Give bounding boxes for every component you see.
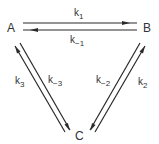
rate-label-k-minus-2: k−2	[96, 74, 111, 88]
arrow-b-to-c	[90, 43, 140, 131]
rate-subscript: −1	[75, 39, 85, 48]
arrowhead-up-left-icon	[15, 46, 21, 54]
rate-subscript: 1	[79, 12, 84, 21]
arrow-a-to-b	[23, 21, 137, 25]
arrow-b-to-a	[23, 28, 137, 32]
rate-subscript: −2	[101, 79, 111, 88]
rate-label-k-minus-1: k−1	[70, 34, 85, 48]
node-a-label: A	[7, 21, 15, 35]
rate-label-k1: k1	[74, 7, 84, 21]
arrowhead-up-right-icon	[140, 46, 146, 54]
rate-subscript: 2	[143, 81, 148, 90]
arrow-c-to-b	[95, 46, 145, 132]
arrowhead-right-icon	[122, 21, 130, 25]
arrow-c-to-a	[15, 46, 65, 132]
arrowhead-down-right-icon	[65, 123, 70, 131]
rate-subscript: 3	[20, 80, 25, 89]
rate-label-k-minus-3: k−3	[48, 74, 63, 88]
node-c-label: C	[75, 129, 84, 143]
node-b-label: B	[143, 21, 151, 35]
arrow-a-to-c	[20, 43, 70, 131]
rate-label-k2: k2	[138, 76, 148, 90]
reaction-scheme-diagram: A B C k1 k−1 k3 k−3	[0, 0, 159, 144]
rate-subscript: −3	[53, 79, 63, 88]
rate-label-k3: k3	[15, 75, 25, 89]
arrowhead-left-icon	[30, 28, 38, 32]
arrowhead-down-left-icon	[91, 123, 96, 131]
